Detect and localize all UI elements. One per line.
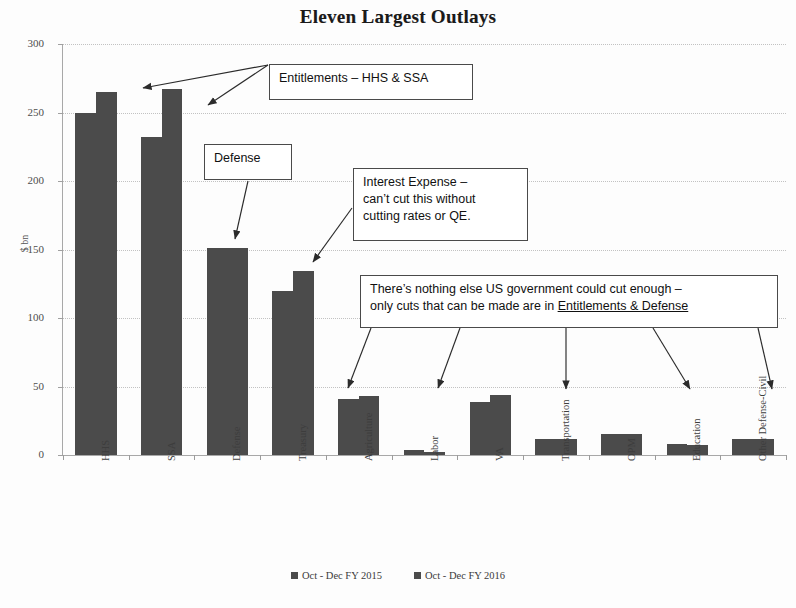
x-axis-tick-mark <box>326 455 327 460</box>
legend-entry: Oct - Dec FY 2015 <box>291 570 382 581</box>
x-axis-tick-mark <box>260 455 261 460</box>
bar <box>227 248 248 455</box>
bar <box>272 291 293 455</box>
bar <box>732 439 753 455</box>
bar-group <box>141 44 182 455</box>
legend-label: Oct - Dec FY 2015 <box>302 570 382 581</box>
x-axis-tick-label: Education <box>691 418 702 461</box>
callout-interest-line-2: can’t cut this without <box>363 191 518 208</box>
bar-group <box>207 44 248 455</box>
x-axis-tick-mark <box>655 455 656 460</box>
y-axis-tick-label: 250 <box>4 106 44 118</box>
x-axis-tick-label: HHS <box>100 440 111 461</box>
x-axis-tick-label: SSA <box>166 442 177 461</box>
x-axis-tick-mark <box>523 455 524 460</box>
bar <box>667 444 688 455</box>
x-axis-tick-label: OPM <box>626 438 637 461</box>
x-axis-tick-mark <box>786 455 787 460</box>
bar-group <box>601 44 642 455</box>
bar <box>162 89 183 455</box>
callout-nothing-else-emphasis: Entitlements & Defense <box>558 299 689 313</box>
y-axis-tick-label: 50 <box>4 380 44 392</box>
chart-legend: Oct - Dec FY 2015Oct - Dec FY 2016 <box>0 570 796 581</box>
y-axis-tick-mark <box>58 250 63 251</box>
x-axis-tick-label: Agriculture <box>363 413 374 461</box>
x-axis-tick-label: Treasury <box>297 424 308 461</box>
x-axis-tick-label: Defense <box>231 427 242 461</box>
bar-group <box>404 44 445 455</box>
bar-group <box>75 44 116 455</box>
bar <box>96 92 117 455</box>
bar <box>338 399 359 455</box>
bar <box>404 450 425 455</box>
callout-entitlements: Entitlements – HHS & SSA <box>269 64 473 100</box>
callout-nothing-else-line-2: only cuts that can be made are in Entitl… <box>370 298 768 315</box>
y-axis-title: $ bn <box>19 235 30 253</box>
legend-swatch <box>291 572 298 579</box>
x-axis-tick-mark <box>63 455 64 460</box>
bar-group <box>667 44 708 455</box>
y-axis-tick-mark <box>58 44 63 45</box>
bar <box>207 248 228 455</box>
legend-swatch <box>414 572 421 579</box>
callout-nothing-else-line-2-prefix: only cuts that can be made are in <box>370 299 558 313</box>
x-axis-tick-label: Labor <box>429 436 440 461</box>
x-axis-tick-mark <box>392 455 393 460</box>
y-axis-tick-label: 0 <box>4 448 44 460</box>
y-axis-tick-mark <box>58 318 63 319</box>
callout-interest-line-1: Interest Expense – <box>363 174 518 191</box>
bar-group <box>338 44 379 455</box>
x-axis-tick-mark <box>194 455 195 460</box>
bar <box>535 439 556 455</box>
x-axis-tick-label: Transportation <box>560 400 571 461</box>
y-axis-tick-mark <box>58 113 63 114</box>
bar-group <box>470 44 511 455</box>
y-axis-tick-mark <box>58 387 63 388</box>
x-axis-tick-mark <box>457 455 458 460</box>
x-axis-tick-mark <box>129 455 130 460</box>
bar-group <box>535 44 576 455</box>
callout-nothing-else-line-1: There’s nothing else US government could… <box>370 281 768 298</box>
bar-group <box>272 44 313 455</box>
y-axis-tick-label: 200 <box>4 174 44 186</box>
callout-defense: Defense <box>204 144 292 180</box>
bar <box>141 137 162 455</box>
x-axis-tick-label: VA <box>494 447 505 461</box>
legend-entry: Oct - Dec FY 2016 <box>414 570 505 581</box>
x-axis-tick-mark <box>589 455 590 460</box>
legend-label: Oct - Dec FY 2016 <box>425 570 505 581</box>
plot-area: 050100150200250300HHSSSADefenseTreasuryA… <box>62 44 786 456</box>
callout-interest-expense: Interest Expense – can’t cut this withou… <box>353 168 528 241</box>
y-axis-tick-mark <box>58 181 63 182</box>
callout-entitlements-text: Entitlements – HHS & SSA <box>279 71 428 85</box>
y-axis-tick-label: 100 <box>4 311 44 323</box>
x-axis-tick-label: Other Defense-Civil <box>757 376 768 461</box>
page-title: Eleven Largest Outlays <box>0 6 796 28</box>
callout-nothing-else: There’s nothing else US government could… <box>360 275 778 328</box>
y-axis-tick-label: 300 <box>4 37 44 49</box>
bar <box>490 395 511 455</box>
callout-defense-text: Defense <box>214 151 261 165</box>
bar <box>75 113 96 456</box>
chart-page: Eleven Largest Outlays 05010015020025030… <box>0 0 796 608</box>
x-axis-tick-mark <box>720 455 721 460</box>
callout-interest-line-3: cutting rates or QE. <box>363 208 518 225</box>
bar <box>601 434 622 455</box>
bar <box>470 402 491 455</box>
